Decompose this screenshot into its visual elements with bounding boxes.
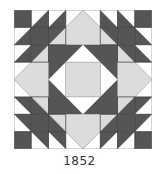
center-light-square bbox=[66, 62, 101, 97]
quilt-block-image bbox=[14, 10, 152, 149]
year-caption: 1852 bbox=[0, 154, 159, 168]
